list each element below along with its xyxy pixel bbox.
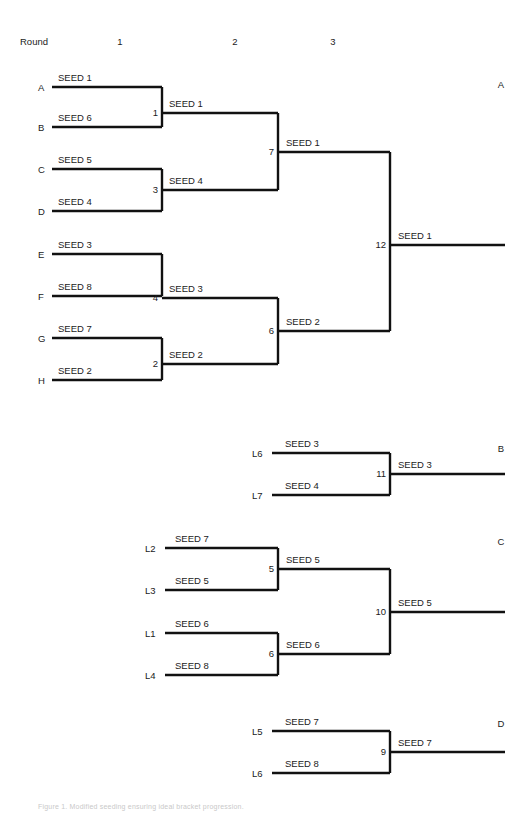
round-number-2: 2 — [232, 36, 237, 47]
winner-seed-game-11: SEED 3 — [398, 459, 432, 470]
seed-label-l7-b: SEED 4 — [285, 480, 319, 491]
winner-seed-game-2: SEED 2 — [169, 349, 203, 360]
slot-label-f: F — [38, 291, 44, 302]
seed-label-c: SEED 5 — [58, 154, 92, 165]
group-label-b: B — [498, 443, 504, 454]
winner-seed-game-6-lower: SEED 6 — [286, 639, 320, 650]
winner-seed-game-10: SEED 5 — [398, 597, 432, 608]
slot-label-l1-c: L1 — [145, 628, 156, 639]
seed-label-l6-d: SEED 8 — [285, 758, 319, 769]
game-number-7: 7 — [269, 146, 274, 157]
winner-seed-game-3: SEED 4 — [169, 175, 203, 186]
game-number-6-upper: 6 — [269, 325, 274, 336]
seed-label-l1-c: SEED 6 — [175, 618, 209, 629]
game-number-5: 5 — [269, 563, 274, 574]
game-number-11: 11 — [376, 468, 386, 479]
winner-seed-game-12: SEED 1 — [398, 230, 432, 241]
game-number-4: 4 — [153, 292, 158, 303]
round-header-label: Round — [20, 36, 48, 47]
seed-label-a: SEED 1 — [58, 72, 92, 83]
slot-label-d: D — [38, 206, 45, 217]
bracket-page: Round 1 2 3 A A B C D E F G H SEED 1 SEE… — [0, 0, 532, 817]
game-number-10: 10 — [375, 606, 386, 617]
winner-seed-game-1: SEED 1 — [169, 98, 203, 109]
slot-label-g: G — [38, 333, 45, 344]
game-number-3: 3 — [153, 184, 158, 195]
seed-label-l5-d: SEED 7 — [285, 716, 319, 727]
tournament-bracket-diagram: Round 1 2 3 A A B C D E F G H SEED 1 SEE… — [0, 0, 532, 817]
round-number-3: 3 — [330, 36, 335, 47]
slot-label-e: E — [38, 249, 44, 260]
seed-label-g: SEED 7 — [58, 323, 92, 334]
winner-seed-game-4: SEED 3 — [169, 283, 203, 294]
seed-label-d: SEED 4 — [58, 196, 92, 207]
round-number-1: 1 — [117, 36, 122, 47]
seed-label-l3-c: SEED 5 — [175, 575, 209, 586]
group-label-c: C — [498, 536, 505, 547]
slot-label-l5-d: L5 — [252, 726, 263, 737]
seed-label-l2-c: SEED 7 — [175, 533, 209, 544]
winner-seed-game-9: SEED 7 — [398, 737, 432, 748]
seed-label-l6-b: SEED 3 — [285, 438, 319, 449]
seed-label-f: SEED 8 — [58, 281, 92, 292]
seed-label-b: SEED 6 — [58, 112, 92, 123]
slot-label-l7-b: L7 — [252, 490, 263, 501]
figure-caption: Figure 1. Modified seeding ensuring idea… — [38, 803, 244, 810]
slot-label-l6-d: L6 — [252, 768, 263, 779]
seed-label-l4-c: SEED 8 — [175, 660, 209, 671]
game-number-6-lower: 6 — [269, 648, 274, 659]
game-number-12: 12 — [375, 239, 386, 250]
slot-label-b: B — [38, 122, 44, 133]
group-label-d: D — [498, 718, 505, 729]
slot-label-l6-b: L6 — [252, 448, 263, 459]
game-number-1: 1 — [153, 107, 158, 118]
winner-seed-game-6-upper: SEED 2 — [286, 316, 320, 327]
winner-seed-game-5: SEED 5 — [286, 554, 320, 565]
game-number-2: 2 — [153, 358, 158, 369]
slot-label-h: H — [38, 375, 45, 386]
slot-label-l4-c: L4 — [145, 670, 156, 681]
seed-label-h: SEED 2 — [58, 365, 92, 376]
slot-label-l2-c: L2 — [145, 543, 156, 554]
slot-label-l3-c: L3 — [145, 585, 156, 596]
slot-label-a: A — [38, 82, 45, 93]
winner-seed-game-7: SEED 1 — [286, 137, 320, 148]
game-number-9: 9 — [381, 746, 386, 757]
slot-label-c: C — [38, 164, 45, 175]
seed-label-e: SEED 3 — [58, 239, 92, 250]
group-label-a: A — [498, 79, 505, 90]
